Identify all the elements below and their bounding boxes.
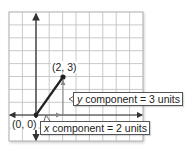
y-component-callout: y component = 3 units: [73, 92, 183, 106]
x-component-callout: x component = 2 units: [40, 121, 150, 135]
point-label-tip: (2, 3): [51, 61, 78, 73]
x-component-text: component = 2 units: [49, 122, 147, 134]
y-component-text: component = 3 units: [82, 93, 180, 105]
origin-point: [34, 113, 39, 118]
tip-point: [60, 74, 65, 79]
point-label-origin: (0, 0): [11, 118, 38, 130]
vector-component-diagram: (2, 3) (0, 0) y component = 3 units x co…: [0, 0, 186, 154]
